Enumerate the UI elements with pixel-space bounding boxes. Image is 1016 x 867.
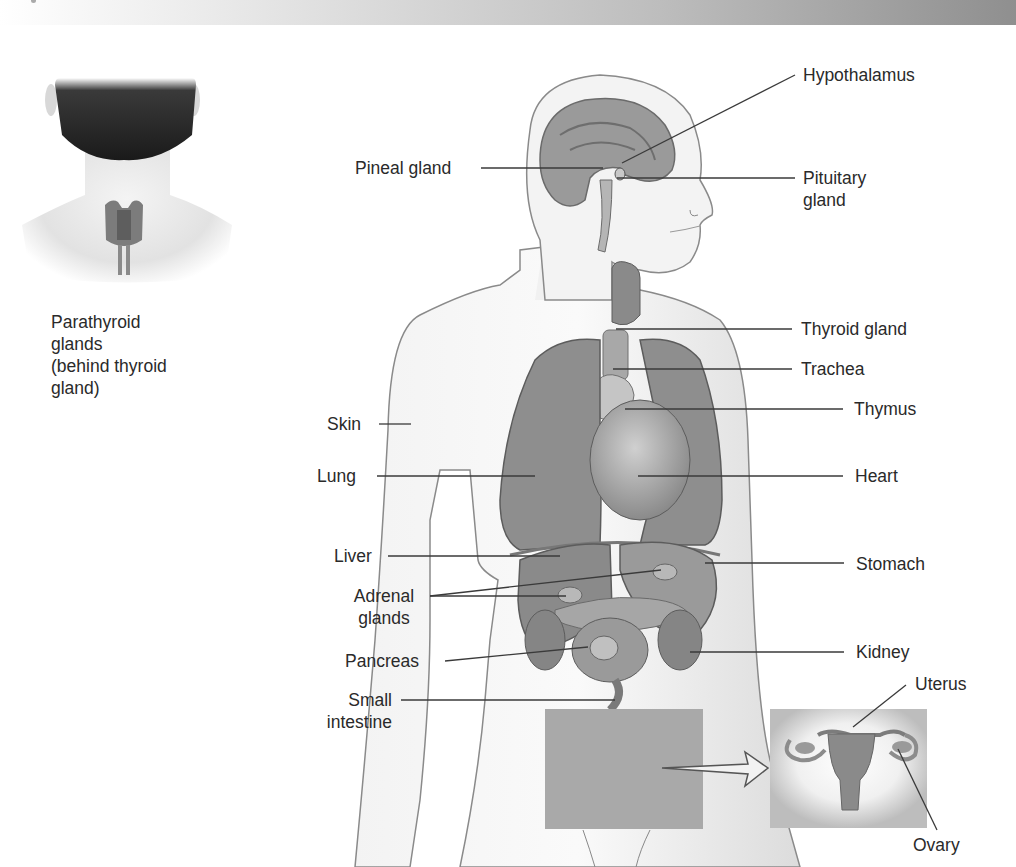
heart-label: Heart — [855, 465, 898, 487]
human-body-figure — [355, 75, 800, 867]
parathyroid-glands-label: Parathyroid glands (behind thyroid gland… — [51, 311, 167, 399]
skin-label: Skin — [327, 413, 361, 435]
pancreas-label: Pancreas — [345, 650, 419, 672]
pineal-gland-label: Pineal gland — [355, 157, 451, 179]
thymus-label: Thymus — [854, 398, 916, 420]
neck-inset-illustration — [22, 78, 232, 283]
kidney-label: Kidney — [856, 641, 910, 663]
lung-label: Lung — [317, 465, 356, 487]
ovary-label: Ovary — [913, 834, 960, 856]
thyroid-gland-label: Thyroid gland — [801, 318, 907, 340]
pituitary-gland-label: Pituitary gland — [803, 167, 866, 211]
uterus-label: Uterus — [915, 673, 967, 695]
adrenal-glands-label: Adrenal glands — [346, 585, 422, 629]
trachea-label: Trachea — [801, 358, 865, 380]
hypothalamus-label: Hypothalamus — [803, 64, 915, 86]
small-intestine-label: Small intestine — [308, 689, 392, 733]
uterus-inset-illustration — [770, 709, 927, 828]
liver-label: Liver — [334, 545, 372, 567]
anatomy-illustration — [0, 0, 1016, 867]
stomach-label: Stomach — [856, 553, 925, 575]
